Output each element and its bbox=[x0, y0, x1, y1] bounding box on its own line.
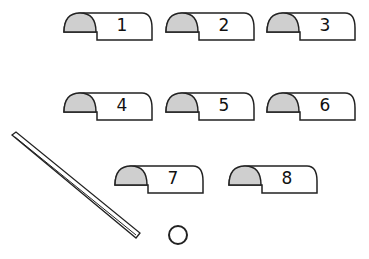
ball[interactable] bbox=[168, 225, 188, 245]
stick[interactable] bbox=[0, 0, 369, 259]
stick-line bbox=[15, 137, 136, 235]
